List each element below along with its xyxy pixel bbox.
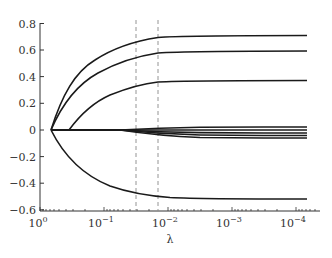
y-tick-labels: 0.8 0.6 0.4 0.2 0 −0.2 −0.4 −0.6 — [9, 18, 36, 217]
x-tick-label: 10−4 — [280, 215, 306, 230]
y-tick-label: 0.2 — [19, 97, 37, 110]
y-tick-label: 0.6 — [19, 44, 37, 57]
curve-coef-9 — [51, 130, 307, 199]
y-tick-label: 0.4 — [19, 71, 37, 84]
y-ticks — [40, 24, 44, 210]
x-ticks — [40, 207, 315, 211]
y-tick-label: 0 — [29, 124, 36, 137]
x-tick-label: 10−2 — [152, 215, 178, 230]
y-tick-label: −0.2 — [9, 151, 36, 164]
x-axis-label: λ — [167, 233, 174, 246]
y-tick-label: −0.4 — [9, 177, 36, 190]
curve-coef-1 — [51, 36, 307, 131]
coefficient-path-chart: 0.8 0.6 0.4 0.2 0 −0.2 −0.4 −0.6 100 10−… — [0, 0, 332, 258]
x-tick-label: 10−1 — [88, 215, 114, 230]
x-tick-labels: 100 10−1 10−2 10−3 10−4 — [28, 215, 305, 230]
y-tick-label: −0.6 — [9, 204, 36, 217]
x-tick-label: 100 — [28, 215, 47, 230]
x-tick-label: 10−3 — [216, 215, 242, 230]
y-tick-label: 0.8 — [19, 18, 37, 31]
coefficient-curves — [51, 36, 307, 200]
curve-coef-3 — [51, 81, 307, 131]
